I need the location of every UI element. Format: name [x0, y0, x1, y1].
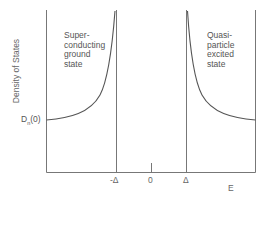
- zero-tick-label: 0: [148, 175, 153, 185]
- y-axis-label: Density of States: [11, 29, 21, 113]
- excited-state-region-label: Quasi- particle excited state: [207, 31, 234, 69]
- neg-gap-tick-label: -Δ: [110, 175, 119, 185]
- pos-gap-tick-label: Δ: [183, 175, 189, 185]
- x-axis-label: E: [228, 183, 234, 193]
- ground-state-region-label: Super- conducting ground state: [64, 31, 105, 69]
- normal-dos-reference-label: Dn(0): [21, 115, 41, 128]
- dos-argument: (0): [30, 114, 40, 124]
